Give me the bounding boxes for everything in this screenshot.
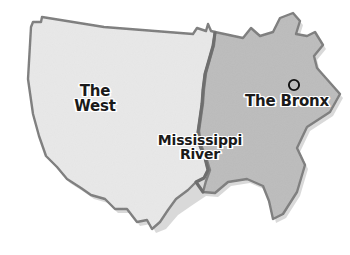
region-label-the-west: The West	[54, 84, 136, 115]
region-east-shape	[199, 13, 340, 219]
us-map-diagram: The West Mississippi River The Bronx	[0, 0, 350, 255]
region-east	[199, 13, 340, 219]
marker-label-the-bronx: The Bronx	[245, 94, 348, 109]
map-graphic	[0, 0, 350, 255]
boundary-label-mississippi-river: Mississippi River	[146, 133, 254, 162]
